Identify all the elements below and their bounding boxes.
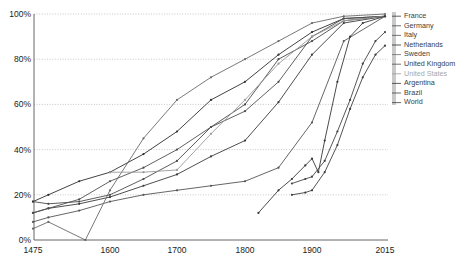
data-point (291, 194, 293, 196)
data-point (244, 180, 246, 182)
data-point (277, 189, 279, 191)
legend-item-italy[interactable]: Italy (404, 30, 455, 40)
data-point (244, 139, 246, 141)
data-point (374, 40, 376, 42)
data-point (277, 40, 279, 42)
series-line-italy (33, 16, 385, 222)
legend-item-brazil[interactable]: Brazil (404, 88, 455, 98)
data-point (336, 130, 338, 132)
data-point (47, 221, 49, 223)
legend-item-france[interactable]: France (404, 11, 455, 21)
series-lines (32, 13, 386, 241)
data-point (311, 40, 313, 42)
data-point (277, 167, 279, 169)
data-point (324, 139, 326, 141)
legend-item-germany[interactable]: Germany (404, 21, 455, 31)
data-point (244, 99, 246, 101)
data-point (311, 158, 313, 160)
data-point (176, 169, 178, 171)
legend-item-argentina[interactable]: Argentina (404, 78, 455, 88)
data-point (362, 22, 364, 24)
data-point (78, 200, 80, 202)
data-point (210, 185, 212, 187)
data-point (176, 130, 178, 132)
data-point (210, 126, 212, 128)
data-point (384, 15, 386, 17)
data-point (311, 54, 313, 56)
plot-area (0, 0, 461, 265)
data-point (142, 137, 144, 139)
data-point (47, 207, 49, 209)
series-line-united-kingdom (33, 16, 385, 213)
legend-item-united-kingdom[interactable]: United Kingdom (404, 59, 455, 69)
data-point (244, 110, 246, 112)
data-point (47, 194, 49, 196)
data-point (343, 15, 345, 17)
data-point (176, 173, 178, 175)
data-point (317, 171, 319, 173)
data-point (304, 164, 306, 166)
data-point (349, 99, 351, 101)
data-point (311, 22, 313, 24)
data-point (277, 54, 279, 56)
data-point (142, 153, 144, 155)
data-point (374, 54, 376, 56)
data-point (304, 178, 306, 180)
data-point (257, 212, 259, 214)
series-line-germany (33, 16, 385, 204)
data-point (343, 22, 345, 24)
gridlines (34, 14, 388, 195)
data-point (277, 101, 279, 103)
data-point (311, 121, 313, 123)
series-line-argentina (258, 16, 385, 213)
data-point (362, 76, 364, 78)
data-point (142, 194, 144, 196)
legend-bracket (392, 12, 401, 105)
data-point (311, 36, 313, 38)
legend-item-world[interactable]: World (404, 97, 455, 107)
data-point (109, 189, 111, 191)
data-point (277, 58, 279, 60)
data-point (343, 40, 345, 42)
series-line-netherlands (33, 16, 385, 201)
legend-item-sweden[interactable]: Sweden (404, 49, 455, 59)
series-line-world (292, 46, 385, 195)
data-point (142, 178, 144, 180)
legend: FranceGermanyItalyNetherlandsSwedenUnite… (404, 11, 455, 107)
data-point (343, 20, 345, 22)
data-point (349, 36, 351, 38)
data-point (109, 196, 111, 198)
data-point (142, 167, 144, 169)
data-point (336, 81, 338, 83)
literacy-rate-chart: 0%20%40%60%80%100% 147516001700180019002… (0, 0, 461, 265)
data-point (277, 63, 279, 65)
data-point (109, 180, 111, 182)
data-point (78, 180, 80, 182)
data-point (109, 194, 111, 196)
data-point (362, 63, 364, 65)
data-point (291, 182, 293, 184)
data-point (244, 58, 246, 60)
data-point (244, 103, 246, 105)
legend-item-netherlands[interactable]: Netherlands (404, 40, 455, 50)
data-point (384, 31, 386, 33)
data-point (142, 171, 144, 173)
series-line-france (33, 16, 385, 213)
data-point (210, 99, 212, 101)
data-point (277, 81, 279, 83)
data-point (142, 185, 144, 187)
data-point (311, 31, 313, 33)
data-point (311, 176, 313, 178)
data-point (210, 76, 212, 78)
data-point (336, 144, 338, 146)
data-point (176, 160, 178, 162)
data-point (78, 203, 80, 205)
legend-item-united-states[interactable]: United States (404, 69, 455, 79)
series-line-sweden (33, 14, 385, 240)
data-point (311, 189, 313, 191)
data-point (244, 81, 246, 83)
data-point (109, 171, 111, 173)
data-point (304, 191, 306, 193)
data-point (291, 178, 293, 180)
data-point (324, 160, 326, 162)
